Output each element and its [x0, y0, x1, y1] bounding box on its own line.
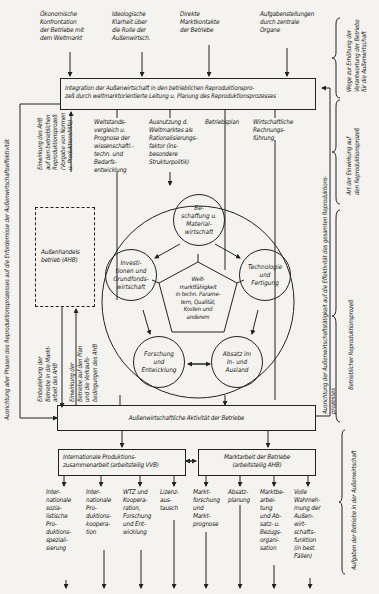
- bottom-cooperation: Inter- nationale Pro- duktions- koopera-…: [86, 488, 111, 536]
- right-inner-label: Ausrichtung der Außenwirtschaftstätigkei…: [321, 94, 336, 414]
- bottom-market-research: Markt- forschung und Markt- prognose: [193, 488, 220, 528]
- integration-text: Integration der Außenwirtschaft in den b…: [65, 84, 311, 100]
- production-cooperation-text: Internationale Produktions- zusammenarbe…: [63, 453, 181, 469]
- brace-label-tasks: Aufgaben der Betriebe in der Außenwirtsc…: [350, 451, 358, 570]
- input-economic-confrontation: Ökonomische Konfrontation der Betriebe m…: [40, 10, 84, 42]
- center-world-market-capability: Welt- marktfähigkeit in techn. Parame- t…: [166, 275, 230, 321]
- ahb-label: Außenhandels betrieb (AHB): [41, 248, 80, 264]
- bottom-license: Lizenz- aus- tausch: [160, 488, 179, 512]
- bottom-market-processing: Marktbe- arbei- tung und Ab- satz- u. Be…: [260, 488, 284, 552]
- input-direct-market-contacts: Direkte Marktkontakte der Betriebe: [180, 10, 219, 34]
- planning-economic-accounting: Wirtschaftliche Rechnungs- führung: [253, 118, 293, 142]
- activity-box: Außenwirtschaftliche Aktivität der Betri…: [57, 405, 316, 431]
- ahb-lower-right-label: Einwirkung der Betriebe auf den Plan und…: [68, 344, 98, 402]
- ahb-box: Außenhandels betrieb (AHB): [35, 207, 95, 307]
- integration-box: Integration der Außenwirtschaft in den b…: [60, 78, 316, 110]
- production-cooperation-box: Internationale Produktions- zusammenarbe…: [58, 449, 186, 476]
- input-ideological-clarity: Ideologische Klarheit über die Rolle der…: [112, 10, 150, 42]
- brace-label-responsibility: Wege zur Erhöhung der Verantwortung der …: [345, 19, 368, 92]
- node-technology: Technologie und Fertigung: [239, 249, 291, 301]
- planning-operation-plan: Betriebsplan: [205, 118, 239, 126]
- input-central-tasks: Aufgabenstellungen durch zentrale Organe: [260, 10, 314, 34]
- bottom-sales-planning: Absatz- planung: [228, 488, 250, 504]
- node-procurement: Be- schaffung u. Material- wirtschaft: [173, 194, 225, 246]
- node-investment: Investi- tionen und Grundfonds- wirtscha…: [105, 249, 157, 301]
- bottom-wtz: WTZ und Koopera- ration, Forschung und E…: [123, 488, 151, 536]
- bottom-full-function: Volle Wahrneh- mung der Außen- wirt- sch…: [294, 488, 320, 560]
- ahb-upper-label: Einwirkung des AHB auf den betrieblichen…: [36, 113, 74, 170]
- brace-label-reproduction: Betrieblicher Reproduktionsprozeß: [347, 300, 355, 390]
- planning-world-standard: Weltstands- vergleich u. Prognose der wi…: [94, 118, 134, 174]
- left-outer-label: Ausrichtung aller Phasen des Reproduktio…: [3, 139, 11, 420]
- brace-label-influence: Art der Einwirkung auf den Reproduktions…: [345, 128, 360, 195]
- market-work-text: Marktarbeit der Betriebe (arbeitsteilig …: [203, 453, 311, 469]
- ahb-lower-left-label: Einbeziehung der Betriebe in die Markt- …: [36, 346, 59, 402]
- node-sales: Absatz im In- und Ausland: [211, 336, 263, 388]
- market-work-box: Marktarbeit der Betriebe (arbeitsteilig …: [198, 449, 316, 476]
- activity-text: Außenwirtschaftliche Aktivität der Betri…: [58, 414, 315, 422]
- bottom-specialization: Inter- nationale sozia- listische Pro- d…: [46, 488, 71, 552]
- planning-world-market: Ausnutzung d. Weltmarktes als Rationalis…: [149, 118, 197, 166]
- node-research: Forschung und Entwicklung: [133, 336, 185, 388]
